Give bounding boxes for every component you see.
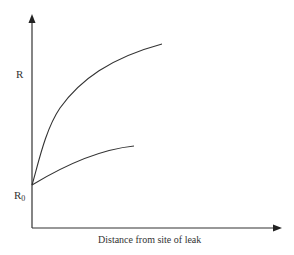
r0-label: R0 (14, 189, 25, 203)
y-axis-label: R (16, 68, 24, 80)
lower-curve (32, 146, 134, 185)
x-axis-arrow-icon (273, 225, 282, 232)
y-axis-arrow-icon (29, 14, 36, 23)
upper-curve (32, 44, 162, 185)
diagram: R R0 Distance from site of leak (0, 0, 294, 255)
x-axis-label: Distance from site of leak (98, 234, 201, 245)
